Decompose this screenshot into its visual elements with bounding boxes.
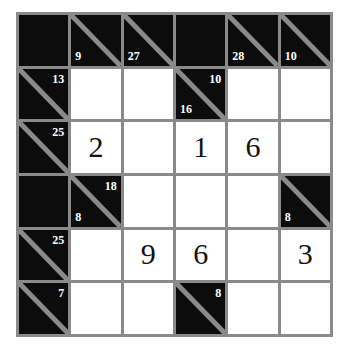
clue-down-value: 16 bbox=[180, 103, 192, 115]
kakuro-entry-value bbox=[71, 283, 120, 334]
clue-down-value: 9 bbox=[75, 50, 81, 62]
kakuro-entry-cell[interactable] bbox=[228, 69, 277, 120]
clue-down-value: 8 bbox=[75, 211, 81, 223]
kakuro-entry-cell[interactable] bbox=[281, 69, 330, 120]
clue-across-value: 7 bbox=[58, 287, 64, 299]
clue-across-value: 18 bbox=[105, 180, 117, 192]
kakuro-entry-cell[interactable] bbox=[281, 122, 330, 173]
kakuro-clue-cell: 8 bbox=[176, 283, 225, 334]
kakuro-entry-value: 9 bbox=[124, 230, 173, 281]
kakuro-entry-cell[interactable]: 6 bbox=[228, 122, 277, 173]
clue-across-value: 13 bbox=[52, 73, 64, 85]
kakuro-clue-cell: 1016 bbox=[176, 69, 225, 120]
kakuro-entry-value bbox=[281, 283, 330, 334]
kakuro-clue-cell: 25 bbox=[19, 230, 68, 281]
kakuro-entry-value: 1 bbox=[176, 122, 225, 173]
kakuro-entry-cell[interactable]: 6 bbox=[176, 230, 225, 281]
kakuro-entry-value bbox=[228, 230, 277, 281]
kakuro-blocked-cell bbox=[19, 176, 68, 227]
kakuro-entry-cell[interactable]: 2 bbox=[71, 122, 120, 173]
kakuro-entry-cell[interactable] bbox=[124, 69, 173, 120]
clue-down-value: 28 bbox=[232, 50, 244, 62]
kakuro-entry-cell[interactable] bbox=[281, 283, 330, 334]
kakuro-entry-cell[interactable] bbox=[176, 176, 225, 227]
kakuro-entry-value bbox=[71, 230, 120, 281]
kakuro-entry-cell[interactable]: 9 bbox=[124, 230, 173, 281]
kakuro-entry-value bbox=[124, 176, 173, 227]
clue-down-value: 10 bbox=[285, 50, 297, 62]
kakuro-entry-value bbox=[281, 122, 330, 173]
kakuro-entry-value: 6 bbox=[176, 230, 225, 281]
clue-across-value: 10 bbox=[209, 73, 221, 85]
kakuro-clue-cell: 13 bbox=[19, 69, 68, 120]
kakuro-puzzle: 92728101310162521618882596378 bbox=[0, 0, 349, 348]
kakuro-entry-value bbox=[71, 69, 120, 120]
kakuro-entry-cell[interactable] bbox=[71, 230, 120, 281]
kakuro-clue-cell: 27 bbox=[124, 15, 173, 66]
kakuro-entry-cell[interactable]: 1 bbox=[176, 122, 225, 173]
kakuro-entry-cell[interactable] bbox=[228, 283, 277, 334]
kakuro-entry-value: 2 bbox=[71, 122, 120, 173]
kakuro-entry-value bbox=[124, 69, 173, 120]
kakuro-grid: 92728101310162521618882596378 bbox=[16, 12, 333, 337]
kakuro-entry-cell[interactable] bbox=[124, 283, 173, 334]
kakuro-entry-cell[interactable]: 3 bbox=[281, 230, 330, 281]
kakuro-entry-cell[interactable] bbox=[228, 176, 277, 227]
kakuro-clue-cell: 10 bbox=[281, 15, 330, 66]
clue-across-value: 25 bbox=[52, 234, 64, 246]
kakuro-clue-cell: 188 bbox=[71, 176, 120, 227]
kakuro-clue-cell: 28 bbox=[228, 15, 277, 66]
kakuro-entry-cell[interactable] bbox=[124, 122, 173, 173]
kakuro-entry-cell[interactable] bbox=[71, 283, 120, 334]
kakuro-entry-cell[interactable] bbox=[71, 69, 120, 120]
kakuro-clue-cell: 8 bbox=[281, 176, 330, 227]
kakuro-entry-value bbox=[176, 176, 225, 227]
clue-down-value: 27 bbox=[128, 50, 140, 62]
kakuro-entry-value bbox=[124, 283, 173, 334]
kakuro-entry-value bbox=[124, 122, 173, 173]
clue-across-value: 25 bbox=[52, 126, 64, 138]
kakuro-blocked-cell bbox=[176, 15, 225, 66]
kakuro-entry-cell[interactable] bbox=[124, 176, 173, 227]
kakuro-clue-cell: 7 bbox=[19, 283, 68, 334]
kakuro-entry-value: 6 bbox=[228, 122, 277, 173]
kakuro-entry-value: 3 bbox=[281, 230, 330, 281]
kakuro-entry-cell[interactable] bbox=[228, 230, 277, 281]
clue-across-value: 8 bbox=[215, 287, 221, 299]
kakuro-entry-value bbox=[228, 176, 277, 227]
kakuro-blocked-cell bbox=[19, 15, 68, 66]
clue-down-value: 8 bbox=[285, 211, 291, 223]
kakuro-clue-cell: 9 bbox=[71, 15, 120, 66]
kakuro-entry-value bbox=[281, 69, 330, 120]
kakuro-entry-value bbox=[228, 283, 277, 334]
kakuro-clue-cell: 25 bbox=[19, 122, 68, 173]
kakuro-entry-value bbox=[228, 69, 277, 120]
